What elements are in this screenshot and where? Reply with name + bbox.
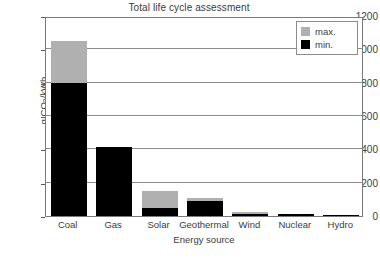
bar-segment-min	[323, 215, 359, 216]
chart-title: Total life cycle assessment	[0, 2, 378, 13]
legend-swatch-min-icon	[301, 40, 310, 49]
x-axis-title: Energy source	[45, 234, 363, 245]
bar-segment-min	[187, 201, 223, 216]
bar-segment-min	[278, 214, 314, 216]
bar-group	[142, 16, 178, 216]
bar-group	[232, 16, 268, 216]
bar-group	[96, 16, 132, 216]
bar-segment-min	[232, 214, 268, 216]
x-tick-label: Hydro	[300, 219, 380, 230]
bar-segment-min	[51, 83, 87, 216]
legend-label: min.	[315, 40, 333, 50]
bar-segment-min	[96, 147, 132, 216]
y-tick-mark	[41, 217, 45, 218]
legend-item: min.	[301, 38, 353, 51]
bar-group	[51, 16, 87, 216]
legend-item: max.	[301, 25, 353, 38]
legend: max.min.	[296, 21, 358, 55]
legend-label: max.	[315, 27, 336, 37]
bar-group	[187, 16, 223, 216]
bar-segment-min	[142, 208, 178, 216]
legend-swatch-max-icon	[301, 27, 310, 36]
